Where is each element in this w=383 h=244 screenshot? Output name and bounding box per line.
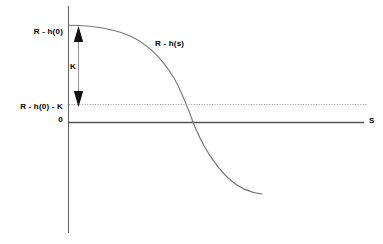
label-zero: 0 xyxy=(0,116,63,124)
label-curve: R - h(s) xyxy=(155,40,184,48)
plot-figure: R - h(0) R - h(0) - K 0 K R - h(s) S xyxy=(0,0,383,244)
label-x-axis: S xyxy=(369,117,375,125)
label-mid-value: R - h(0) - K xyxy=(0,103,63,111)
curve-r-minus-h-s xyxy=(69,25,262,194)
label-top-value: R - h(0) xyxy=(0,28,63,36)
label-k-bracket: K xyxy=(70,63,76,71)
